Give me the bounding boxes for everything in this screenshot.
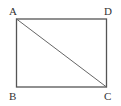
diagonal-ac: [17, 19, 107, 87]
vertex-label-c: C: [104, 90, 111, 102]
rectangle-diagram: A D B C: [0, 0, 121, 106]
vertex-label-a: A: [9, 5, 17, 17]
vertex-label-b: B: [9, 90, 16, 102]
vertex-label-d: D: [104, 5, 112, 17]
